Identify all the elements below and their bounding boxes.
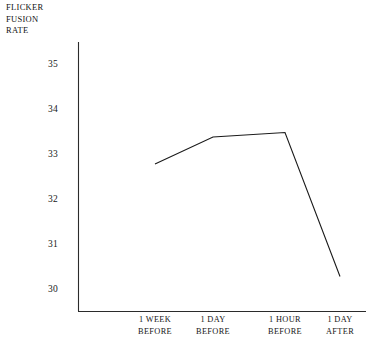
plot-area <box>0 0 366 341</box>
data-series-line <box>155 133 340 277</box>
chart-figure: FLICKERFUSIONRATE 35 34 33 32 31 30 1 WE… <box>0 0 366 341</box>
